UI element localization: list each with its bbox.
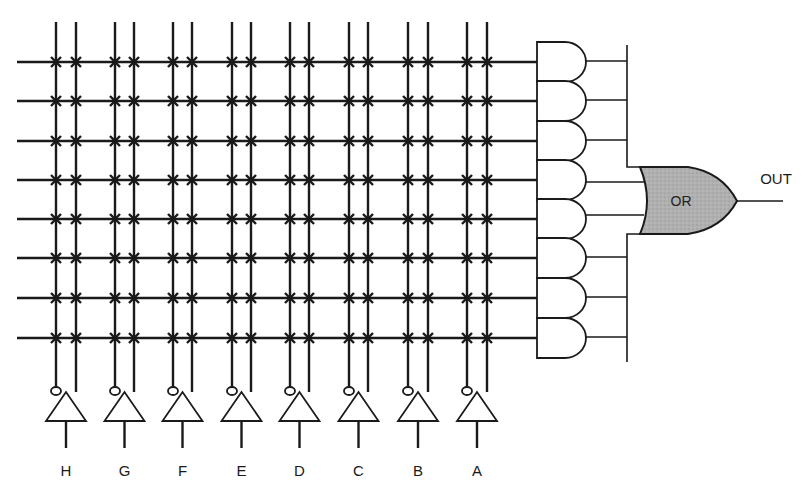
input-columns [56,22,487,392]
input-buffer-icon [280,387,320,448]
input-buffer-icon [105,387,145,448]
and-gate-icon [537,160,586,200]
input-buffer-icon [163,387,203,448]
and-gate-icon [537,278,586,318]
input-label-g: G [119,462,131,479]
and-gate-icon [537,121,586,161]
pla-diagram [0,0,806,494]
input-buffer-icon [46,387,86,448]
and-gate-icon [537,42,586,82]
input-buffers [46,387,497,448]
input-buffer-icon [398,387,438,448]
input-buffer-icon [457,387,497,448]
input-label-b: B [413,462,423,479]
product-term-rows [17,62,537,338]
input-label-f: F [178,462,187,479]
input-label-h: H [61,462,72,479]
output-label: OUT [760,170,792,187]
input-buffer-icon [222,387,262,448]
input-buffer-icon [339,387,379,448]
or-gate-label: OR [671,193,692,209]
input-label-d: D [294,462,305,479]
and-gate-icon [537,318,586,358]
input-label-a: A [472,462,482,479]
input-label-c: C [353,462,364,479]
or-input-bus [586,45,644,362]
input-label-e: E [236,462,246,479]
and-gate-icon [537,199,586,239]
and-gate-icon [537,238,586,278]
and-gates [537,42,586,358]
and-gate-icon [537,81,586,121]
